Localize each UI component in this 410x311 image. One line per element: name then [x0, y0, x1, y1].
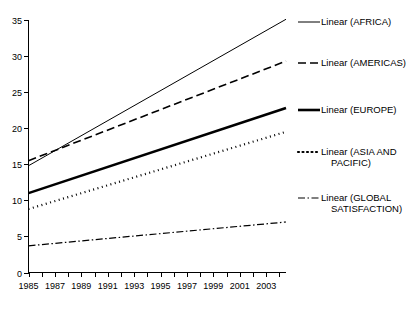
x-tick-label: 2003 [256, 281, 276, 291]
y-tick-label: 15 [12, 160, 22, 170]
legend-label: Linear (ASIA AND [321, 146, 397, 157]
x-tick-label: 1989 [71, 281, 91, 291]
y-tick-label: 20 [12, 124, 22, 134]
line-chart: 05101520253035 1985198719891991199319951… [0, 0, 410, 311]
data-series-group [29, 19, 287, 246]
x-tick-label: 1997 [177, 281, 197, 291]
series-line [29, 19, 287, 165]
y-tick-label: 35 [12, 16, 22, 26]
y-tick-label: 0 [17, 269, 22, 279]
series-line [29, 61, 287, 161]
x-tick-label: 1987 [45, 281, 65, 291]
chart-legend: Linear (AFRICA)Linear (AMERICAS)Linear (… [298, 16, 406, 214]
legend-label-line2: SATISFACTION) [331, 203, 402, 214]
x-tick-label: 1995 [151, 281, 171, 291]
series-line [29, 108, 287, 193]
x-tick-label: 1991 [98, 281, 118, 291]
y-axis-tick-labels: 05101520253035 [12, 16, 22, 279]
y-tick-label: 30 [12, 52, 22, 62]
legend-label: Linear (GLOBAL [321, 192, 391, 203]
y-tick-label: 5 [17, 232, 22, 242]
legend-label: Linear (EUROPE) [321, 104, 397, 115]
x-tick-label: 2001 [230, 281, 250, 291]
y-axis-ticks [24, 21, 29, 274]
legend-label: Linear (AMERICAS) [321, 57, 406, 68]
legend-label-line2: PACIFIC) [331, 157, 371, 168]
x-tick-label: 1999 [203, 281, 223, 291]
chart-container: 05101520253035 1985198719891991199319951… [0, 0, 410, 311]
y-tick-label: 10 [12, 196, 22, 206]
x-axis-tick-labels: 1985198719891991199319951997199920012003 [18, 281, 276, 291]
x-tick-label: 1993 [124, 281, 144, 291]
x-axis-ticks [30, 273, 280, 278]
legend-label: Linear (AFRICA) [321, 16, 391, 27]
x-tick-label: 1985 [18, 281, 38, 291]
y-tick-label: 25 [12, 88, 22, 98]
series-line [29, 222, 287, 246]
